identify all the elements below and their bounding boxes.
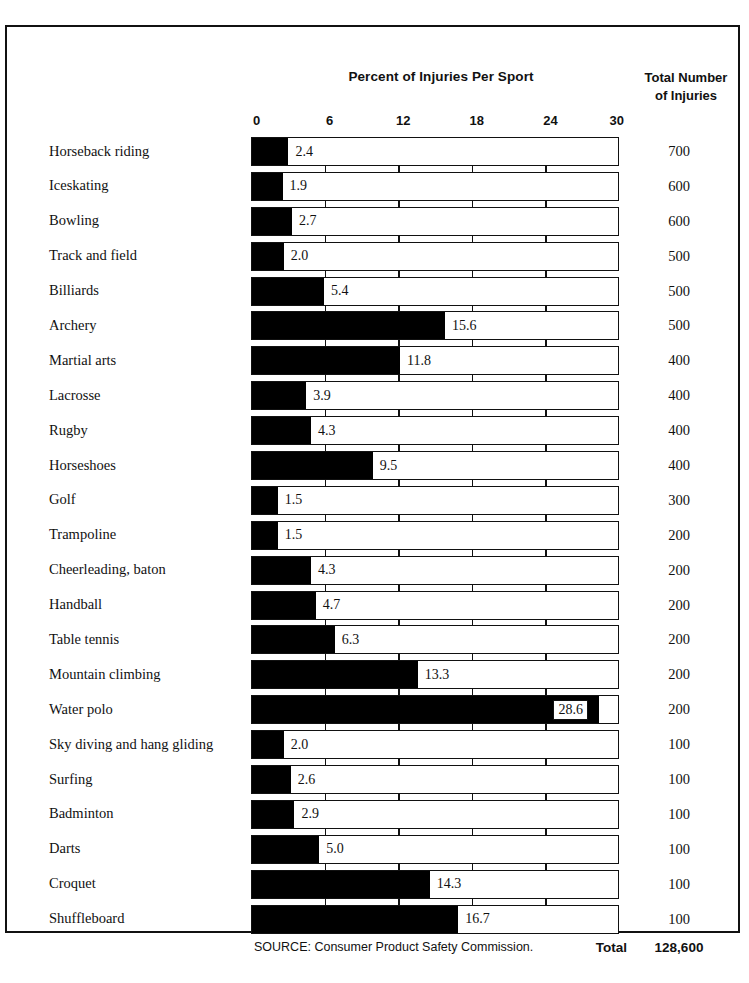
bar-fill bbox=[252, 278, 324, 305]
grand-total-value: 128,600 bbox=[627, 940, 731, 955]
category-label: Billiards bbox=[49, 277, 244, 306]
total-injuries-value: 200 bbox=[627, 695, 731, 724]
chart-title: Percent of Injuries Per Sport bbox=[257, 69, 625, 84]
bar-track: 14.3 bbox=[251, 870, 619, 899]
bar-track: 1.5 bbox=[251, 486, 619, 515]
grand-total-label: Total bbox=[567, 940, 627, 955]
bar-fill bbox=[252, 312, 445, 339]
total-injuries-value: 500 bbox=[627, 311, 731, 340]
total-injuries-value: 200 bbox=[627, 625, 731, 654]
category-label: Lacrosse bbox=[49, 381, 244, 410]
chart-row: Bowling2.7600 bbox=[7, 207, 742, 242]
total-injuries-value: 400 bbox=[627, 451, 731, 480]
bar-fill bbox=[252, 592, 316, 619]
bar-fill bbox=[252, 626, 335, 653]
chart-row: Table tennis6.3200 bbox=[7, 625, 742, 660]
total-injuries-value: 700 bbox=[627, 137, 731, 166]
category-label: Cheerleading, baton bbox=[49, 556, 244, 585]
bar-value-label: 5.0 bbox=[319, 836, 344, 863]
bar-track: 1.9 bbox=[251, 172, 619, 201]
bar-track: 5.4 bbox=[251, 277, 619, 306]
bar-fill bbox=[252, 522, 278, 549]
category-label: Rugby bbox=[49, 416, 244, 445]
total-column-header-line2: of Injuries bbox=[627, 87, 745, 105]
category-label: Horseshoes bbox=[49, 451, 244, 480]
category-label: Martial arts bbox=[49, 346, 244, 375]
bar-value-label: 3.9 bbox=[306, 382, 331, 409]
bar-fill bbox=[252, 452, 373, 479]
total-injuries-value: 600 bbox=[627, 207, 731, 236]
bar-value-label: 2.7 bbox=[292, 208, 317, 235]
total-injuries-value: 100 bbox=[627, 905, 731, 934]
bar-value-label: 2.4 bbox=[288, 138, 313, 165]
bar-value-label: 2.0 bbox=[284, 243, 309, 270]
chart-row: Golf1.5300 bbox=[7, 486, 742, 521]
chart-row: Rugby4.3400 bbox=[7, 416, 742, 451]
category-label: Bowling bbox=[49, 207, 244, 236]
category-label: Iceskating bbox=[49, 172, 244, 201]
x-axis-tick-label: 24 bbox=[543, 113, 557, 128]
chart-row: Croquet14.3100 bbox=[7, 870, 742, 905]
bar-track: 2.6 bbox=[251, 765, 619, 794]
bar-value-label: 1.9 bbox=[283, 173, 308, 200]
category-label: Trampoline bbox=[49, 521, 244, 550]
bar-fill bbox=[252, 836, 319, 863]
bar-fill bbox=[252, 766, 291, 793]
total-injuries-value: 400 bbox=[627, 381, 731, 410]
chart-row: Mountain climbing13.3200 bbox=[7, 660, 742, 695]
bar-fill bbox=[252, 173, 283, 200]
bar-fill bbox=[252, 382, 306, 409]
bar-value-label: 4.3 bbox=[311, 417, 336, 444]
total-injuries-value: 400 bbox=[627, 346, 731, 375]
total-injuries-value: 600 bbox=[627, 172, 731, 201]
chart-row: Shuffleboard16.7100 bbox=[7, 905, 742, 940]
chart-row: Horseback riding2.4700 bbox=[7, 137, 742, 172]
chart-row: Trampoline1.5200 bbox=[7, 521, 742, 556]
bar-value-label: 9.5 bbox=[373, 452, 398, 479]
bar-track: 9.5 bbox=[251, 451, 619, 480]
chart-row: Water polo28.6200 bbox=[7, 695, 742, 730]
category-label: Surfing bbox=[49, 765, 244, 794]
bar-track: 16.7 bbox=[251, 905, 619, 934]
bar-track: 6.3 bbox=[251, 625, 619, 654]
chart-row: Lacrosse3.9400 bbox=[7, 381, 742, 416]
bar-fill bbox=[252, 347, 400, 374]
bar-track: 11.8 bbox=[251, 346, 619, 375]
chart-row: Darts5.0100 bbox=[7, 835, 742, 870]
x-axis-tick-label: 18 bbox=[470, 113, 484, 128]
bar-value-label: 1.5 bbox=[278, 487, 303, 514]
chart-row: Badminton2.9100 bbox=[7, 800, 742, 835]
bar-value-label: 1.5 bbox=[278, 522, 303, 549]
total-column-header: Total Number of Injuries bbox=[627, 69, 745, 104]
category-label: Sky diving and hang gliding bbox=[49, 730, 244, 759]
category-label: Archery bbox=[49, 311, 244, 340]
x-axis-tick-label: 12 bbox=[396, 113, 410, 128]
total-injuries-value: 100 bbox=[627, 835, 731, 864]
bar-value-label: 11.8 bbox=[400, 347, 431, 374]
bar-track: 4.3 bbox=[251, 556, 619, 585]
chart-row: Cheerleading, baton4.3200 bbox=[7, 556, 742, 591]
bar-fill bbox=[252, 243, 284, 270]
category-label: Water polo bbox=[49, 695, 244, 724]
total-injuries-value: 100 bbox=[627, 800, 731, 829]
category-label: Shuffleboard bbox=[49, 905, 244, 934]
category-label: Darts bbox=[49, 835, 244, 864]
bar-value-label: 5.4 bbox=[324, 278, 349, 305]
chart-row: Track and field2.0500 bbox=[7, 242, 742, 277]
bar-fill bbox=[252, 557, 311, 584]
bar-value-label: 2.9 bbox=[294, 801, 319, 828]
bar-track: 2.0 bbox=[251, 242, 619, 271]
category-label: Horseback riding bbox=[49, 137, 244, 166]
bar-fill bbox=[252, 801, 294, 828]
bar-value-label: 4.7 bbox=[316, 592, 341, 619]
source-note: SOURCE: Consumer Product Safety Commissi… bbox=[254, 940, 533, 954]
total-injuries-value: 300 bbox=[627, 486, 731, 515]
bar-track: 3.9 bbox=[251, 381, 619, 410]
bar-track: 1.5 bbox=[251, 521, 619, 550]
bar-track: 2.7 bbox=[251, 207, 619, 236]
chart-rows: Horseback riding2.4700Iceskating1.9600Bo… bbox=[7, 137, 742, 939]
chart-row: Iceskating1.9600 bbox=[7, 172, 742, 207]
bar-fill bbox=[252, 906, 458, 933]
total-injuries-value: 100 bbox=[627, 730, 731, 759]
bar-fill bbox=[252, 208, 292, 235]
